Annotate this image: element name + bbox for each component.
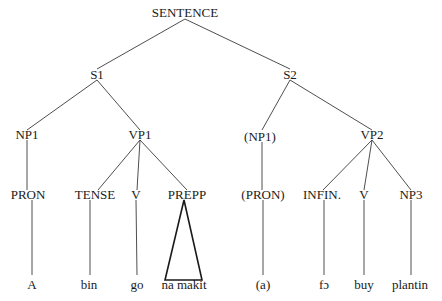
edge-vp1-prepp	[140, 140, 187, 190]
tree-edges	[27, 19, 411, 280]
leaf-a-optional: (a)	[256, 277, 270, 292]
edge-vp1-v	[137, 140, 140, 190]
node-v2: V	[359, 187, 369, 202]
edge-s1-np1	[27, 80, 97, 130]
edge-v-go	[136, 200, 137, 275]
edge-vp2-infin	[323, 140, 372, 190]
node-sentence: SENTENCE	[152, 5, 219, 20]
node-np3: NP3	[399, 187, 422, 202]
node-vp1: VP1	[128, 127, 151, 142]
edge-s2-np1opt	[262, 80, 290, 130]
node-s1: S1	[90, 67, 104, 82]
node-infin: INFIN.	[303, 187, 341, 202]
leaf-fo: fɔ	[319, 277, 329, 292]
node-s2: S2	[283, 67, 297, 82]
edge-sentence-s2	[185, 19, 290, 69]
edge-s1-vp1	[97, 80, 140, 130]
edge-sentence-s1	[97, 19, 185, 69]
node-pron: PRON	[11, 187, 46, 202]
edge-s2-vp2	[290, 80, 372, 130]
node-v1: V	[131, 187, 141, 202]
leaf-go: go	[131, 277, 144, 292]
leaf-a: A	[27, 277, 37, 292]
leaf-plantin: plantin	[392, 277, 429, 292]
edge-vp2-np3	[372, 140, 411, 190]
node-np1-optional: (NP1)	[244, 129, 276, 144]
leaf-bin: bin	[81, 277, 98, 292]
leaf-buy: buy	[354, 277, 374, 292]
node-vp2: VP2	[360, 127, 383, 142]
node-pron-optional: (PRON)	[241, 187, 284, 202]
syntax-tree-diagram: SENTENCE S1 S2 NP1 VP1 (NP1) VP2 PRON TE…	[0, 0, 442, 301]
node-np1: NP1	[15, 127, 38, 142]
node-prepp: PREPP	[168, 187, 206, 202]
edge-vp1-tense	[98, 140, 140, 190]
node-tense: TENSE	[75, 187, 116, 202]
leaf-na-makit: na makit	[161, 277, 207, 292]
prepp-triangle	[165, 200, 202, 280]
tree-labels: SENTENCE S1 S2 NP1 VP1 (NP1) VP2 PRON TE…	[11, 5, 429, 292]
